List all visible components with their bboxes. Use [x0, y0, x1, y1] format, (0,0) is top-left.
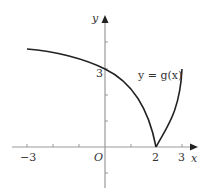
x-tick-label-3: 3	[178, 151, 185, 164]
y-tick-label-3: 3	[96, 67, 103, 80]
curve-left-branch	[27, 49, 156, 147]
x-tick-label-neg3: −3	[20, 151, 36, 164]
x-tick-label-2: 2	[152, 151, 159, 164]
origin-label: O	[94, 151, 103, 164]
y-axis-arrow-icon	[102, 15, 109, 23]
x-axis-label: x	[191, 152, 198, 165]
graph-canvas: y x O −3 2 3 3 y = g(x)	[0, 0, 204, 196]
y-axis-label: y	[91, 12, 99, 25]
curve-label: y = g(x)	[137, 69, 182, 82]
x-axis-arrow-icon	[190, 144, 198, 151]
